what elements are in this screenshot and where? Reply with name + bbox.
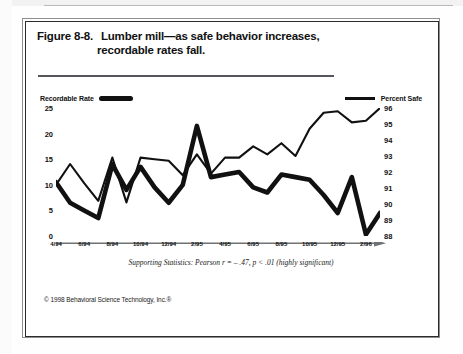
x-axis-tick-6-94: 6/94 xyxy=(78,241,90,247)
x-axis-tick-8-94: 8/94 xyxy=(106,241,118,247)
legend-item-percent-safe: Percent Safe xyxy=(345,95,422,102)
x-axis: 4/946/948/9410/9412/942/954/956/958/9510… xyxy=(56,236,386,250)
axis-tick-91: 91 xyxy=(384,184,392,193)
figure-title-block: Figure 8-8. Lumber mill—as safe behavior… xyxy=(37,29,367,58)
legend-label-percent-safe: Percent Safe xyxy=(381,95,422,102)
chart-plot-area xyxy=(56,108,380,236)
axis-tick-96: 96 xyxy=(384,104,392,113)
axis-tick-5: 5 xyxy=(49,206,53,215)
axis-tick-89: 89 xyxy=(384,216,392,225)
axis-tick-94: 94 xyxy=(384,136,392,145)
legend-swatch-recordable-rate xyxy=(99,96,133,101)
axis-tick-15: 15 xyxy=(45,155,53,164)
figure-number: Figure 8-8. xyxy=(37,29,93,43)
x-axis-tick-4-95: 4/95 xyxy=(219,241,231,247)
figure-title-line1: Lumber mill—as safe behavior increases, xyxy=(101,29,319,43)
axis-tick-25: 25 xyxy=(45,104,53,113)
x-axis-tick-12-94: 12/94 xyxy=(161,241,176,247)
axis-tick-92: 92 xyxy=(384,168,392,177)
x-axis-tick-2-95: 2/95 xyxy=(191,241,203,247)
scan-top-rule xyxy=(44,5,453,6)
axis-tick-0: 0 xyxy=(49,232,53,241)
x-axis-tick-4-94: 4/94 xyxy=(50,241,62,247)
legend-swatch-percent-safe xyxy=(345,97,375,100)
axis-tick-95: 95 xyxy=(384,120,392,129)
x-axis-tick-12-95: 12/95 xyxy=(330,241,345,247)
x-axis-tick-10-94: 10/94 xyxy=(133,241,148,247)
scanned-page: Figure 8-8. Lumber mill—as safe behavior… xyxy=(0,0,463,354)
axis-tick-90: 90 xyxy=(384,200,392,209)
chart-svg xyxy=(56,108,380,236)
legend-item-recordable-rate: Recordable Rate xyxy=(40,95,133,102)
x-axis-tick-8-95: 8/95 xyxy=(276,241,288,247)
y-axis-right-ticks: 888990919293949596 xyxy=(384,108,406,236)
supporting-statistics: Supporting Statistics: Pearson r = – .47… xyxy=(25,258,437,267)
title-divider xyxy=(38,75,334,77)
x-axis-tick-2-96: 2/96 xyxy=(360,241,372,247)
x-axis-tick-10-95: 10/95 xyxy=(302,241,317,247)
axis-tick-93: 93 xyxy=(384,152,392,161)
y-axis-left-ticks: 0510152025 xyxy=(33,108,53,236)
axis-tick-20: 20 xyxy=(45,129,53,138)
chart-legend: Recordable Rate Percent Safe xyxy=(40,95,422,107)
x-axis-tick-6-95: 6/95 xyxy=(247,241,259,247)
copyright-notice: © 1998 Behavioral Science Technology, In… xyxy=(44,296,171,303)
figure-title-line2: recordable rates fall. xyxy=(97,43,367,58)
legend-label-recordable-rate: Recordable Rate xyxy=(40,95,94,102)
axis-tick-10: 10 xyxy=(45,180,53,189)
scan-left-edge xyxy=(0,0,12,354)
